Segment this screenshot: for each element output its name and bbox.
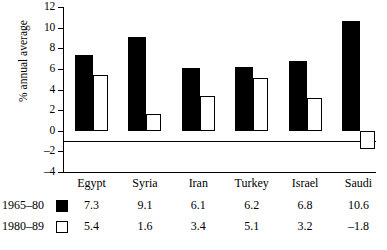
bar-syria-series2 (146, 114, 161, 131)
y-axis-tick (58, 48, 63, 49)
legend-label-series2: 1980–89 (2, 219, 44, 234)
table-row: 1965–807.39.16.16.26.810.6 (0, 196, 387, 217)
y-axis-line (63, 7, 64, 172)
y-axis-tick-label: 12 (15, 1, 55, 13)
y-axis-tick-label: –4 (15, 166, 55, 178)
table-cell: 10.6 (326, 198, 387, 213)
y-axis-tick-label: 2 (15, 104, 55, 116)
bar-egypt-series1 (75, 55, 93, 130)
bar-syria-series1 (128, 37, 146, 131)
zero-baseline (63, 141, 376, 142)
bar-iran-series1 (182, 68, 200, 131)
bar-iran-series2 (200, 96, 215, 131)
y-axis-tick-label: –2 (15, 145, 55, 157)
bar-turkey-series2 (253, 78, 268, 131)
y-axis-tick (58, 7, 63, 8)
data-table: 1965–807.39.16.16.26.810.61980–895.41.63… (0, 196, 387, 238)
y-axis-tick (58, 90, 63, 91)
bar-israel-series1 (289, 61, 307, 131)
bar-saudi-series1 (342, 21, 360, 130)
y-axis-tick-label: 0 (15, 125, 55, 137)
bar-saudi-series2 (360, 131, 375, 150)
bar-israel-series2 (307, 98, 322, 131)
y-axis-tick (58, 28, 63, 29)
y-axis-tick-label: 4 (15, 84, 55, 96)
y-axis-tick-label: 10 (15, 22, 55, 34)
bar-chart-plot-area: % annual average 121086420–2–4 EgyptSyri… (0, 0, 387, 180)
category-label-saudi: Saudi (326, 176, 387, 191)
y-axis-tick (58, 110, 63, 111)
y-axis-tick (58, 151, 63, 152)
y-axis-tick (58, 69, 63, 70)
x-axis-line (63, 172, 376, 173)
table-cell: –1.8 (326, 219, 387, 234)
y-axis-tick (58, 131, 63, 132)
y-axis-tick-label: 8 (15, 42, 55, 54)
bar-egypt-series2 (93, 75, 108, 131)
table-row: 1980–895.41.63.45.13.2–1.8 (0, 217, 387, 238)
y-axis-tick (58, 172, 63, 173)
y-axis-tick-label: 6 (15, 63, 55, 75)
bar-turkey-series1 (235, 67, 253, 131)
legend-label-series1: 1965–80 (2, 198, 44, 213)
